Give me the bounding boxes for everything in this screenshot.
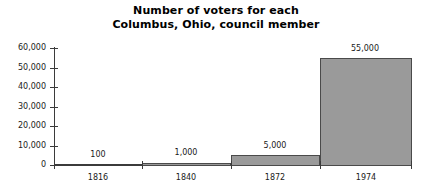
y-axis-tick xyxy=(50,126,58,127)
y-axis-tick xyxy=(50,87,58,88)
bar-1974[interactable] xyxy=(320,58,412,166)
x-axis-tick xyxy=(320,161,321,169)
y-axis-label-60000: 60,000 xyxy=(0,44,46,52)
bar-value-1872: 5,000 xyxy=(230,141,320,150)
bar-value-1974: 55,000 xyxy=(320,44,410,53)
x-axis-label-1816: 1816 xyxy=(53,173,143,182)
y-axis-tick xyxy=(50,146,58,147)
chart-title: Number of voters for each Columbus, Ohio… xyxy=(0,4,432,32)
bar-value-1840: 1,000 xyxy=(141,148,231,157)
bar-1872[interactable] xyxy=(231,155,320,166)
x-axis-tick xyxy=(54,161,55,169)
x-axis-label-1872: 1872 xyxy=(230,173,320,182)
x-axis-label-1840: 1840 xyxy=(141,173,231,182)
y-axis-label-30000: 30,000 xyxy=(0,103,46,111)
chart-title-line-1: Number of voters for each xyxy=(0,4,432,18)
y-axis-label-20000: 20,000 xyxy=(0,122,46,130)
y-axis-tick xyxy=(50,68,58,69)
x-axis-tick xyxy=(231,161,232,169)
y-axis-label-0: 0 xyxy=(0,161,46,169)
bar-1816[interactable] xyxy=(54,164,142,165)
x-axis-label-1974: 1974 xyxy=(321,173,411,182)
y-axis-label-50000: 50,000 xyxy=(0,64,46,72)
bar-value-1816: 100 xyxy=(53,150,143,159)
y-axis-tick xyxy=(50,107,58,108)
bar-1840[interactable] xyxy=(142,163,231,166)
x-axis-tick xyxy=(142,161,143,169)
y-axis-tick xyxy=(50,48,58,49)
bar-chart: Number of voters for each Columbus, Ohio… xyxy=(0,0,432,195)
chart-title-line-2: Columbus, Ohio, council member xyxy=(0,18,432,32)
y-axis-label-40000: 40,000 xyxy=(0,83,46,91)
x-axis-tick xyxy=(411,161,412,169)
y-axis-label-10000: 10,000 xyxy=(0,142,46,150)
